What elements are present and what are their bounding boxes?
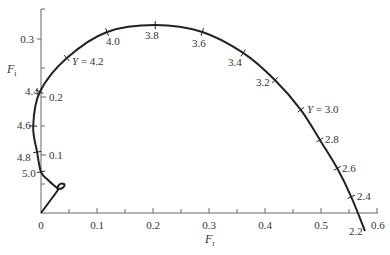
x-axis-title: Fr [204, 232, 215, 248]
chart-plot: 00.10.20.30.40.50.6 0.10.20.3 2.22.42.62… [0, 0, 390, 255]
y-tick-label: 0.2 [49, 91, 63, 103]
y-tick-label: 0.3 [20, 33, 34, 45]
y-axis-title: Fi [6, 62, 17, 78]
curve-point-label: 4.6 [17, 119, 31, 131]
curve-point-label: 4.8 [17, 151, 31, 163]
curve-point-label: 4.0 [106, 35, 120, 47]
curve-point-label: 2.4 [357, 190, 371, 202]
x-tick-label: 0.4 [258, 219, 272, 231]
curve-point-label: 3.2 [256, 76, 270, 88]
x-tick-label: 0.5 [314, 219, 328, 231]
x-tick-label: 0 [38, 219, 44, 231]
curve-point-label: 5.0 [22, 167, 36, 179]
x-tick-label: 0.2 [146, 219, 160, 231]
x-tick-label: 0.3 [202, 219, 216, 231]
curve-parameter-marks: 2.22.42.62.8Y = 3.03.23.43.63.84.0Y = 4.… [17, 21, 371, 237]
curve-point-label: 2.6 [342, 162, 356, 174]
curve-point-label: 3.4 [228, 56, 242, 68]
curve-point-label: 2.2 [349, 225, 363, 237]
y-axis [41, 9, 45, 213]
x-axis-ticks: 00.10.20.30.40.50.6 [38, 208, 385, 231]
curve-point-label: Y = 3.0 [307, 103, 339, 115]
curve-point-label: 2.8 [325, 133, 339, 145]
curve-point-label: 4.4 [25, 85, 39, 97]
curve-point-label: Y = 4.2 [72, 55, 104, 67]
x-tick-label: 0.6 [371, 219, 385, 231]
curve-point-label: 3.6 [192, 37, 206, 49]
y-tick-label: 0.1 [49, 149, 63, 161]
x-tick-label: 0.1 [90, 219, 104, 231]
curve-point-label: 3.8 [145, 29, 159, 41]
